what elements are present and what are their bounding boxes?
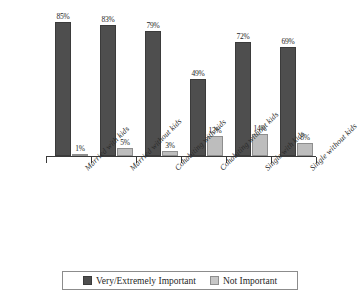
bar-value-label: 72%: [226, 32, 260, 41]
plot-area: 85%1%83%5%79%3%49%13%72%14%69%8%: [46, 8, 316, 156]
bar-value-label: 85%: [46, 12, 80, 21]
bar-value-label: 1%: [63, 144, 97, 153]
bar-value-label: 79%: [136, 21, 170, 30]
bar-value-label: 49%: [181, 69, 215, 78]
bar-group: 85%1%: [55, 8, 89, 156]
bar-not-important[interactable]: [297, 143, 313, 156]
bar-not-important[interactable]: [117, 148, 133, 156]
legend-swatch-icon: [210, 276, 219, 285]
legend-swatch-icon: [83, 276, 92, 285]
legend-label: Not Important: [223, 276, 277, 286]
bar-very-extremely-important[interactable]: [55, 22, 71, 156]
legend-item-very-extremely-important: Very/Extremely Important: [83, 276, 196, 286]
bar-value-label: 83%: [91, 15, 125, 24]
legend-item-not-important: Not Important: [210, 276, 277, 286]
legend-label: Very/Extremely Important: [96, 276, 196, 286]
bar-value-label: 69%: [271, 37, 305, 46]
chart-legend: Very/Extremely Important Not Important: [62, 271, 298, 290]
x-axis-category-labels: Married with kidsMarried without kidsCoh…: [0, 156, 331, 256]
